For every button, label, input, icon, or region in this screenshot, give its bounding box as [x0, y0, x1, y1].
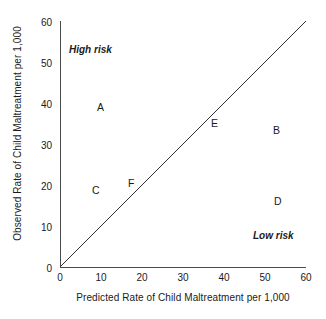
low-risk-annotation: Low risk [253, 230, 294, 241]
data-point-a: A [97, 102, 104, 113]
y-tick-label-20: 20 [30, 181, 52, 192]
data-point-d: D [274, 196, 282, 207]
x-tick-label-10: 10 [89, 272, 113, 283]
x-tick-label-50: 50 [253, 272, 277, 283]
y-tick-label-40: 40 [30, 99, 52, 110]
y-axis-title: Observed Rate of Child Maltreatment per … [12, 9, 23, 259]
high-risk-annotation: High risk [69, 44, 112, 55]
data-point-c: C [92, 185, 100, 196]
data-point-e: E [211, 118, 218, 129]
y-tick-label-30: 30 [30, 140, 52, 151]
x-axis-line [60, 267, 306, 268]
x-tick-label-0: 0 [48, 272, 72, 283]
y-tick-label-60: 60 [30, 17, 52, 28]
y-tick-label-10: 10 [30, 222, 52, 233]
x-tick-label-30: 30 [171, 272, 195, 283]
x-tick-label-20: 20 [130, 272, 154, 283]
data-point-f: F [128, 178, 134, 189]
x-tick-label-60: 60 [294, 272, 318, 283]
y-tick-label-50: 50 [30, 58, 52, 69]
y-axis-line [60, 21, 61, 268]
data-point-b: B [273, 125, 280, 136]
x-tick-label-40: 40 [212, 272, 236, 283]
scatter-chart-figure: Observed Rate of Child Maltreatment per … [0, 0, 326, 319]
x-axis-title: Predicted Rate of Child Maltreatment per… [40, 292, 326, 303]
